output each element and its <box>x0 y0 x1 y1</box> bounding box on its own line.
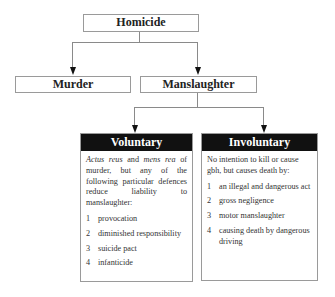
item-number: 4 <box>207 226 219 248</box>
manslaughter-node: Manslaughter <box>140 76 257 93</box>
involuntary-intro: No intention to kill or cause gbh, but c… <box>207 155 312 177</box>
item-text: motor manslaughter <box>219 211 312 222</box>
item-text: diminished responsibility <box>98 229 187 240</box>
connector-line <box>197 42 198 68</box>
item-number: 1 <box>207 182 219 193</box>
voluntary-defences-list: 1provocation 2diminished responsibility … <box>86 214 187 269</box>
item-text: infanticide <box>98 258 187 269</box>
item-number: 1 <box>86 214 98 225</box>
item-text: provocation <box>98 214 187 225</box>
arrow-down-icon <box>132 125 138 133</box>
actus-reus-term: Actus reus <box>86 155 123 164</box>
manslaughter-label: Manslaughter <box>163 77 235 91</box>
list-item: 4causing death by dangerous driving <box>207 226 312 248</box>
voluntary-title: Voluntary <box>81 134 192 151</box>
voluntary-panel: Voluntary Actus reus and mens rea of mur… <box>80 133 193 282</box>
item-text: gross negligence <box>219 196 312 207</box>
list-item: 2diminished responsibility <box>86 229 187 240</box>
connector-line <box>72 42 198 43</box>
homicide-node: Homicide <box>83 14 199 32</box>
connector-line <box>72 42 73 68</box>
connector-line <box>134 107 264 108</box>
list-item: 3suicide pact <box>86 244 187 255</box>
item-number: 3 <box>207 211 219 222</box>
murder-node: Murder <box>15 76 131 93</box>
involuntary-panel: Involuntary No intention to kill or caus… <box>201 133 318 281</box>
homicide-label: Homicide <box>116 15 165 29</box>
item-text: an illegal and dangerous act <box>219 182 312 193</box>
arrow-down-icon <box>70 67 76 75</box>
item-text: suicide pact <box>98 244 187 255</box>
item-number: 4 <box>86 258 98 269</box>
murder-label: Murder <box>53 77 94 91</box>
arrow-down-icon <box>261 125 267 133</box>
list-item: 3motor manslaughter <box>207 211 312 222</box>
item-number: 2 <box>207 196 219 207</box>
item-number: 2 <box>86 229 98 240</box>
list-item: 4infanticide <box>86 258 187 269</box>
item-text: causing death by dangerous driving <box>219 226 312 248</box>
connector-line <box>197 93 198 108</box>
connector-line <box>263 107 264 126</box>
connector-line <box>134 107 135 126</box>
involuntary-title: Involuntary <box>202 134 317 151</box>
item-number: 3 <box>86 244 98 255</box>
list-item: 1an illegal and dangerous act <box>207 182 312 193</box>
list-item: 1provocation <box>86 214 187 225</box>
voluntary-intro: Actus reus and mens rea of murder, but a… <box>86 155 187 209</box>
arrow-down-icon <box>195 67 201 75</box>
mens-rea-term: mens rea <box>144 155 176 164</box>
involuntary-causes-list: 1an illegal and dangerous act 2gross neg… <box>207 182 312 248</box>
intro-text: and <box>123 155 144 164</box>
list-item: 2gross negligence <box>207 196 312 207</box>
